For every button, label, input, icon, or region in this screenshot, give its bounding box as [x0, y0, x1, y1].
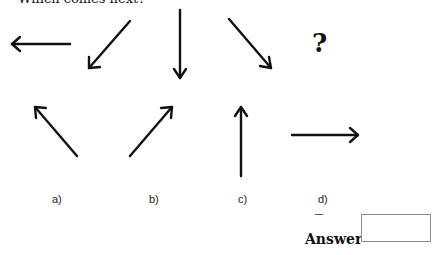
option-a-label[interactable]: a): [52, 193, 62, 205]
decorative-mark: [314, 212, 324, 215]
option-b-label[interactable]: b): [149, 193, 159, 205]
question-mark-placeholder: ?: [312, 28, 327, 58]
arrow-left-icon: [12, 37, 70, 51]
answer-label: Answer: [305, 231, 362, 247]
option-b-arrow-up-right-icon: [130, 107, 172, 156]
arrow-down-right-icon: [229, 19, 271, 68]
option-c-label[interactable]: c): [238, 193, 247, 205]
option-c-arrow-up-icon: [235, 107, 247, 176]
option-d-label[interactable]: d): [318, 193, 328, 205]
arrow-down-icon: [174, 10, 186, 78]
option-a-arrow-up-left-icon: [35, 107, 77, 156]
answer-input[interactable]: [361, 214, 431, 242]
option-d-arrow-right-icon: [292, 128, 358, 142]
arrow-down-left-icon: [89, 21, 130, 68]
